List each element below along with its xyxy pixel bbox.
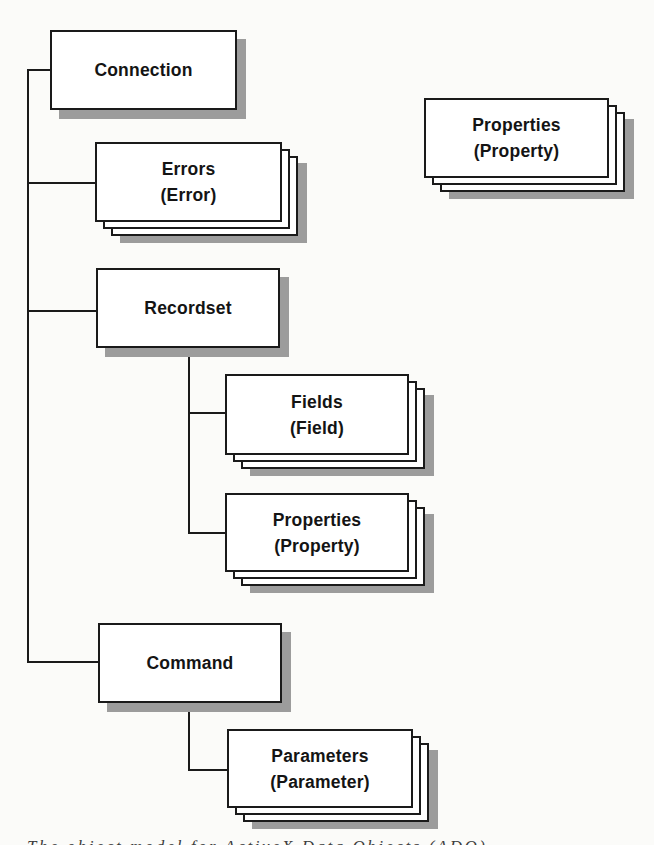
connector-branch-fields [188,412,227,414]
command-box: Command [98,623,282,703]
diagram-canvas: Connection Errors (Error) Properties (Pr… [0,0,654,845]
errors-collection-node: Errors (Error) [95,142,282,222]
node-label: Properties [472,112,561,138]
connector-branch-properties [188,532,227,534]
connection-box: Connection [50,30,237,110]
node-sublabel: (Error) [161,182,217,208]
node-label: Fields [291,389,343,415]
parameters-collection-node: Parameters (Parameter) [227,729,413,808]
connection-node: Connection [50,30,237,110]
command-node: Command [98,623,282,703]
connector-recordset-subtrunk [188,348,190,534]
node-sublabel: (Parameter) [270,769,369,795]
connector-branch-recordset [27,310,98,312]
connector-command-subtrunk [188,703,190,771]
node-sublabel: (Property) [274,533,360,559]
connector-branch-connection [27,69,52,71]
connector-branch-parameters [188,769,229,771]
node-label: Recordset [144,295,231,321]
properties-floating-collection-node: Properties (Property) [424,98,609,178]
node-label: Parameters [271,743,368,769]
recordset-node: Recordset [96,268,280,348]
properties-floating-box: Properties (Property) [424,98,609,178]
node-label: Properties [273,507,362,533]
fields-box: Fields (Field) [225,374,409,455]
connector-branch-command [27,661,100,663]
errors-box: Errors (Error) [95,142,282,222]
properties-recordset-box: Properties (Property) [225,493,409,572]
connector-branch-errors [27,182,97,184]
node-label: Command [147,650,234,676]
properties-recordset-collection-node: Properties (Property) [225,493,409,572]
parameters-box: Parameters (Parameter) [227,729,413,808]
node-sublabel: (Property) [474,138,560,164]
node-label: Errors [162,156,216,182]
connector-main-trunk [27,69,29,663]
node-label: Connection [94,57,192,83]
recordset-box: Recordset [96,268,280,348]
node-sublabel: (Field) [290,415,344,441]
figure-caption-clipped: The object model for ActiveX Data Object… [27,837,627,845]
fields-collection-node: Fields (Field) [225,374,409,455]
